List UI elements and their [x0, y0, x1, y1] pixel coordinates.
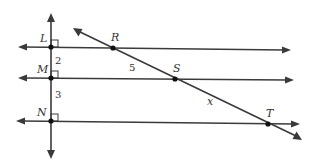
point-R: [110, 45, 115, 50]
label-M: M: [36, 63, 49, 76]
segment-MN-length: 3: [55, 89, 61, 100]
point-T: [265, 121, 270, 126]
arrow-right-icon: [285, 77, 294, 84]
label-S: S: [173, 62, 181, 75]
arrow-left-icon: [18, 75, 27, 82]
parallel-line-top: [18, 44, 291, 54]
geometry-diagram: L M N R S T 2 3 5 x: [0, 0, 316, 167]
label-L: L: [39, 32, 47, 45]
segment-RS-length: 5: [129, 62, 135, 73]
vertical-line: [47, 13, 55, 159]
label-N: N: [36, 106, 47, 119]
label-R: R: [110, 31, 119, 44]
point-S: [172, 76, 177, 81]
arrow-down-icon: [47, 150, 55, 159]
parallel-line-middle: [18, 75, 294, 84]
point-M: [48, 75, 53, 80]
segment-LM-length: 2: [55, 55, 61, 66]
point-N: [48, 118, 53, 123]
parallel-line-bottom: [16, 118, 300, 128]
point-L: [48, 44, 53, 49]
arrow-up-icon: [47, 13, 55, 22]
arrow-left-icon: [18, 44, 27, 51]
arrow-left-icon: [16, 118, 25, 125]
arrow-right-icon: [291, 121, 300, 128]
arrow-right-icon: [282, 47, 291, 54]
segment-ST-length: x: [207, 95, 214, 108]
label-T: T: [266, 107, 275, 120]
